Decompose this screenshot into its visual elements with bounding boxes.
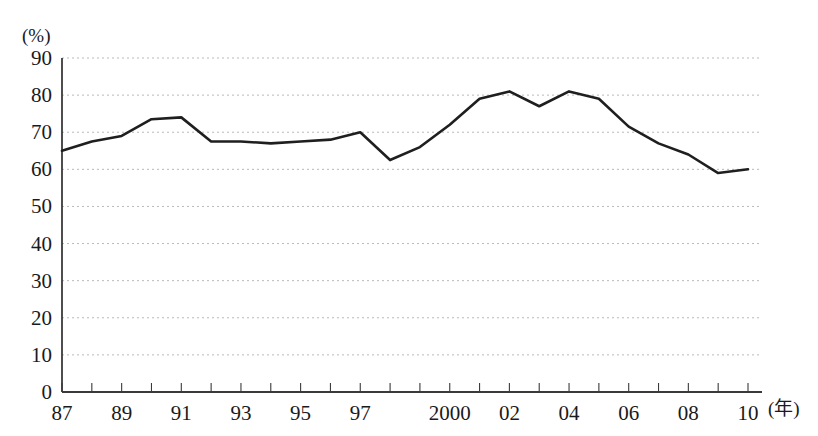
- y-tick-label: 60: [31, 157, 52, 181]
- y-tick-label: 80: [31, 83, 52, 107]
- x-tick-label: 89: [111, 401, 132, 425]
- x-tick-label: 91: [171, 401, 192, 425]
- x-tick-label: 87: [52, 401, 73, 425]
- y-tick-label: 0: [42, 380, 53, 404]
- x-tick-label: 2000: [429, 401, 471, 425]
- y-axis-unit-label: (%): [22, 25, 50, 47]
- x-tick-label: 10: [738, 401, 759, 425]
- x-tick-label: 95: [290, 401, 311, 425]
- x-axis-caption-label: (年): [768, 398, 800, 420]
- x-tick-label: 08: [678, 401, 699, 425]
- y-tick-label: 40: [31, 232, 52, 256]
- y-tick-label: 90: [31, 46, 52, 70]
- y-tick-label: 20: [31, 306, 52, 330]
- x-tick-label: 97: [350, 401, 371, 425]
- x-axis-tick-labels: 87899193959720000204060810: [52, 401, 759, 425]
- y-tick-label: 30: [31, 269, 52, 293]
- x-tick-label: 06: [618, 401, 639, 425]
- y-axis-tick-labels: 0102030405060708090: [31, 46, 52, 404]
- y-tick-label: 70: [31, 120, 52, 144]
- y-tick-label: 10: [31, 343, 52, 367]
- y-tick-label: 50: [31, 194, 52, 218]
- line-chart-figure: 0102030405060708090 87899193959720000204…: [0, 0, 818, 436]
- chart-canvas: 0102030405060708090 87899193959720000204…: [0, 0, 818, 436]
- x-tick-label: 93: [230, 401, 251, 425]
- chart-axes: [62, 58, 762, 392]
- x-tick-label: 02: [499, 401, 520, 425]
- data-series-line: [62, 91, 748, 173]
- x-tick-label: 04: [559, 401, 581, 425]
- x-axis-ticks: [62, 383, 748, 392]
- gridlines: [62, 58, 762, 355]
